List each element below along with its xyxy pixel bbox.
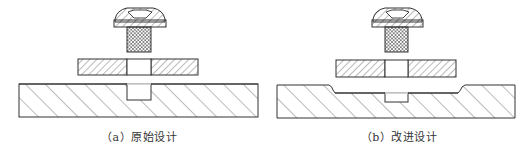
base-b	[277, 85, 515, 118]
screw-shank-a	[127, 27, 151, 52]
panel-a	[19, 8, 258, 117]
screw-shank-b	[385, 27, 408, 52]
washer-plate-a	[78, 59, 198, 75]
screw-flange-a	[114, 20, 166, 27]
blind-hole-a	[127, 84, 151, 100]
caption-panel-b: （b）改进设计	[361, 128, 438, 144]
caption-panel-a: （a）原始设计	[101, 128, 177, 144]
washer-hole-a	[127, 59, 151, 75]
washer-plate-b	[336, 60, 456, 77]
screw-b	[372, 8, 423, 52]
base-a	[19, 84, 258, 117]
screw-flange-b	[372, 20, 423, 27]
diagram-canvas	[0, 0, 530, 150]
screw-a	[114, 8, 166, 52]
washer-hole-b	[385, 60, 408, 77]
panel-b	[277, 8, 515, 118]
blind-hole-b	[385, 93, 408, 102]
